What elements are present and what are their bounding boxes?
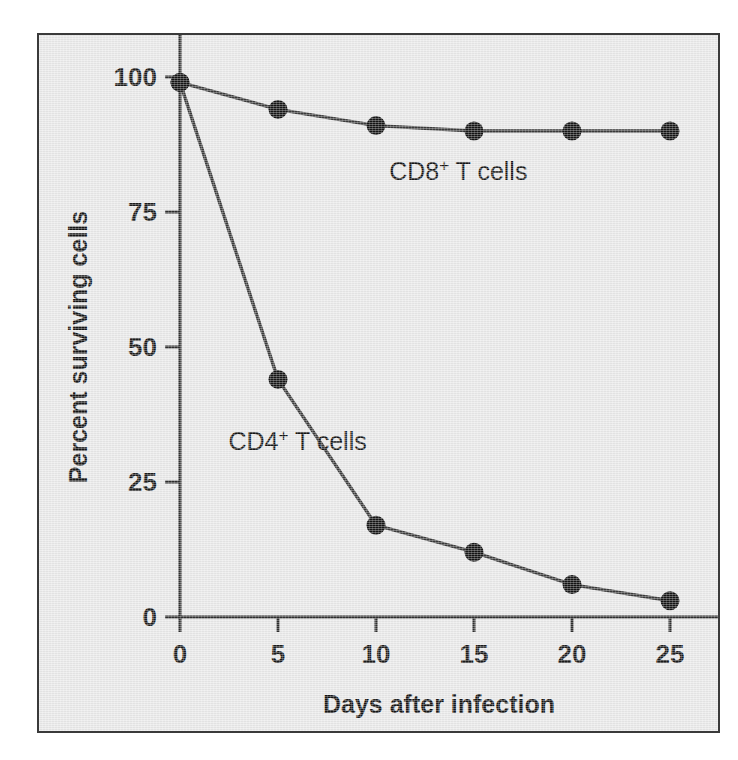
data-point-marker — [269, 370, 288, 389]
data-point-marker — [367, 116, 386, 135]
line-chart: 100 75 50 25 0 0 5 10 15 20 25 — [39, 35, 718, 731]
x-tick-label-10: 10 — [362, 639, 391, 669]
x-tick-label-0: 0 — [173, 639, 187, 669]
series-markers-cd4 — [171, 73, 680, 610]
figure-panel: 100 75 50 25 0 0 5 10 15 20 25 — [37, 33, 720, 733]
y-tick-label-0: 0 — [143, 602, 157, 632]
data-point-marker — [563, 122, 582, 141]
y-tick-label-25: 25 — [128, 467, 157, 497]
y-tick-marks — [165, 77, 180, 617]
data-point-marker — [465, 122, 484, 141]
data-point-marker — [661, 591, 680, 610]
y-tick-label-100: 100 — [114, 62, 157, 92]
y-tick-label-75: 75 — [128, 197, 157, 227]
data-point-marker — [171, 73, 190, 92]
data-point-marker — [367, 516, 386, 535]
series-annotation-cd8: CD8+ T cells — [389, 156, 527, 185]
x-axis-title: Days after infection — [323, 690, 555, 718]
figure-page: 100 75 50 25 0 0 5 10 15 20 25 — [0, 0, 738, 760]
y-tick-labels: 100 75 50 25 0 — [114, 62, 157, 632]
series-annotation-cd4: CD4+ T cells — [228, 426, 366, 455]
x-tick-labels: 0 5 10 15 20 25 — [173, 639, 685, 669]
y-tick-label-50: 50 — [128, 332, 157, 362]
data-point-marker — [661, 122, 680, 141]
series-cd4 — [171, 73, 680, 610]
series-line-cd8 — [180, 82, 670, 131]
data-point-marker — [465, 543, 484, 562]
data-point-marker — [563, 575, 582, 594]
y-axis-title: Percent surviving cells — [64, 211, 92, 483]
x-tick-label-5: 5 — [271, 639, 285, 669]
x-tick-label-20: 20 — [558, 639, 587, 669]
x-tick-label-15: 15 — [460, 639, 489, 669]
x-tick-label-25: 25 — [656, 639, 685, 669]
x-tick-marks — [180, 617, 670, 632]
series-cd8 — [171, 73, 680, 141]
data-point-marker — [269, 100, 288, 119]
